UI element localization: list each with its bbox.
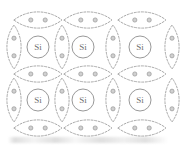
electron-dot-1 — [147, 126, 151, 130]
horizontal-bond-orbitals — [14, 12, 166, 136]
electron-dot-0 — [29, 126, 33, 130]
valence-electron — [79, 72, 83, 76]
valence-electron — [170, 107, 174, 111]
electron-dot-0 — [60, 89, 64, 93]
electron-dot-1 — [111, 54, 115, 58]
electron-dot-0 — [133, 18, 137, 22]
bond-orbital-outline — [55, 78, 69, 122]
atom-label: Si — [136, 95, 144, 105]
electron-dot-0 — [29, 72, 33, 76]
valence-electron — [111, 107, 115, 111]
atom-label: Si — [34, 95, 42, 105]
horizontal-bond-7 — [64, 120, 112, 136]
valence-electron — [12, 36, 16, 40]
valence-electron — [43, 126, 47, 130]
valence-electron — [133, 72, 137, 76]
electron-dot-0 — [133, 126, 137, 130]
valence-electron — [133, 126, 137, 130]
bond-orbital-outline — [14, 12, 62, 28]
vertical-bond-2 — [106, 25, 120, 69]
valence-electron — [29, 18, 33, 22]
bond-orbital-outline — [7, 25, 21, 69]
vertical-bond-6 — [106, 78, 120, 122]
electron-dot-1 — [170, 107, 174, 111]
valence-electron — [93, 18, 97, 22]
bond-orbital-outline — [118, 66, 166, 82]
valence-electron — [60, 89, 64, 93]
electron-dot-0 — [111, 89, 115, 93]
valence-electron — [170, 36, 174, 40]
valence-electron — [79, 126, 83, 130]
horizontal-bond-8 — [118, 120, 166, 136]
valence-electron — [12, 107, 16, 111]
vertical-bond-1 — [55, 25, 69, 69]
electron-dot-1 — [43, 72, 47, 76]
electron-dot-0 — [170, 89, 174, 93]
electron-dot-1 — [43, 18, 47, 22]
valence-electron — [111, 36, 115, 40]
valence-electron — [29, 72, 33, 76]
bond-orbital-outline — [118, 120, 166, 136]
silicon-atom-0: Si — [27, 36, 49, 58]
electron-dot-0 — [79, 72, 83, 76]
electron-dot-1 — [111, 107, 115, 111]
bond-orbital-outline — [106, 78, 120, 122]
electron-dot-0 — [12, 36, 16, 40]
valence-electron — [147, 18, 151, 22]
bond-orbital-outline — [55, 25, 69, 69]
valence-electron — [111, 54, 115, 58]
horizontal-bond-6 — [14, 120, 62, 136]
caption-smudge — [8, 137, 168, 143]
valence-electron — [12, 54, 16, 58]
valence-electron — [60, 107, 64, 111]
vertical-bond-5 — [55, 78, 69, 122]
electron-dot-1 — [170, 54, 174, 58]
electron-dot-0 — [170, 36, 174, 40]
bond-orbital-outline — [118, 12, 166, 28]
valence-electron — [111, 89, 115, 93]
electron-dot-0 — [79, 18, 83, 22]
bond-orbital-outline — [64, 12, 112, 28]
atom-label: Si — [79, 95, 87, 105]
atom-label: Si — [136, 42, 144, 52]
silicon-lattice-diagram: SiSiSiSiSiSi — [0, 0, 187, 147]
atom-label: Si — [34, 42, 42, 52]
valence-electron — [133, 18, 137, 22]
electron-dot-1 — [60, 107, 64, 111]
silicon-atom-1: Si — [72, 36, 94, 58]
valence-electron — [170, 89, 174, 93]
valence-electron — [93, 126, 97, 130]
electron-dot-1 — [147, 72, 151, 76]
horizontal-bond-2 — [118, 12, 166, 28]
silicon-atom-4: Si — [72, 89, 94, 111]
electron-dot-1 — [147, 18, 151, 22]
electron-dot-0 — [79, 126, 83, 130]
electron-dot-1 — [12, 107, 16, 111]
bond-orbital-outline — [165, 78, 179, 122]
silicon-atom-3: Si — [27, 89, 49, 111]
electron-dot-1 — [93, 72, 97, 76]
electron-dot-1 — [12, 54, 16, 58]
electron-dot-0 — [60, 36, 64, 40]
bond-orbital-outline — [7, 78, 21, 122]
electron-dot-0 — [133, 72, 137, 76]
electron-dot-1 — [43, 126, 47, 130]
electron-dot-1 — [93, 18, 97, 22]
horizontal-bond-1 — [64, 12, 112, 28]
silicon-atom-5: Si — [129, 89, 151, 111]
valence-electron — [12, 89, 16, 93]
valence-electron — [43, 72, 47, 76]
horizontal-bond-3 — [14, 66, 62, 82]
electron-dot-0 — [29, 18, 33, 22]
bond-orbital-outline — [64, 66, 112, 82]
valence-electron — [147, 126, 151, 130]
valence-electron — [60, 54, 64, 58]
valence-electron — [170, 54, 174, 58]
vertical-bond-7 — [165, 78, 179, 122]
valence-electron — [147, 72, 151, 76]
bond-orbital-outline — [165, 25, 179, 69]
valence-electron — [60, 36, 64, 40]
vertical-bond-0 — [7, 25, 21, 69]
valence-electron — [79, 18, 83, 22]
electron-dot-0 — [12, 89, 16, 93]
